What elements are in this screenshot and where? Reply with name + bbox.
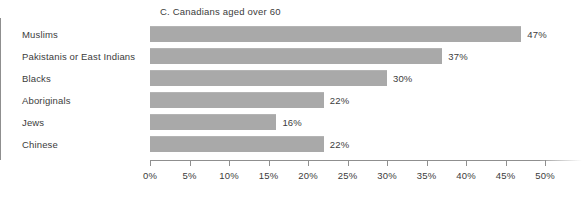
x-axis-tick bbox=[506, 160, 507, 166]
x-axis-tick bbox=[387, 160, 388, 166]
x-axis-tick-label: 40% bbox=[456, 170, 475, 181]
x-axis-tick-label: 45% bbox=[496, 170, 515, 181]
x-axis-tick bbox=[348, 160, 349, 166]
bar bbox=[150, 48, 442, 64]
x-axis-tick bbox=[229, 160, 230, 166]
x-axis-tick-label: 35% bbox=[417, 170, 436, 181]
category-label: Blacks bbox=[22, 73, 51, 84]
x-axis-tick-label: 5% bbox=[182, 170, 196, 181]
x-axis-tick bbox=[150, 160, 151, 166]
x-axis-tick bbox=[308, 160, 309, 166]
bar bbox=[150, 70, 387, 86]
x-axis-tick-label: 10% bbox=[219, 170, 238, 181]
x-axis-tick-label: 15% bbox=[259, 170, 278, 181]
bar-value-label: 47% bbox=[527, 29, 546, 40]
category-label: Muslims bbox=[22, 29, 58, 40]
category-label: Aboriginals bbox=[22, 95, 71, 106]
x-axis-tick-label: 0% bbox=[143, 170, 157, 181]
x-axis-tick-label: 25% bbox=[338, 170, 357, 181]
x-axis-line bbox=[150, 160, 540, 161]
x-axis-tick-label: 20% bbox=[298, 170, 317, 181]
x-axis-line-tail bbox=[540, 160, 582, 161]
bar bbox=[150, 92, 324, 108]
x-axis-tick bbox=[269, 160, 270, 166]
x-axis-tick-label: 50% bbox=[535, 170, 554, 181]
x-axis-tick bbox=[427, 160, 428, 166]
bar bbox=[150, 136, 324, 152]
chart-container: C. Canadians aged over 60 MuslimsPakista… bbox=[0, 0, 587, 199]
bar bbox=[150, 114, 276, 130]
category-label: Jews bbox=[22, 117, 44, 128]
bar-value-label: 22% bbox=[330, 95, 349, 106]
chart-title: C. Canadians aged over 60 bbox=[160, 6, 281, 17]
category-label: Chinese bbox=[22, 139, 58, 150]
x-axis-tick bbox=[545, 160, 546, 166]
bar-value-label: 22% bbox=[330, 139, 349, 150]
x-axis-tick bbox=[190, 160, 191, 166]
x-axis-tick-label: 30% bbox=[377, 170, 396, 181]
x-axis-tick bbox=[466, 160, 467, 166]
y-axis-line bbox=[0, 18, 1, 160]
bar bbox=[150, 26, 521, 42]
bar-value-label: 16% bbox=[282, 117, 301, 128]
category-label: Pakistanis or East Indians bbox=[22, 51, 135, 62]
bar-value-label: 37% bbox=[448, 51, 467, 62]
bar-value-label: 30% bbox=[393, 73, 412, 84]
